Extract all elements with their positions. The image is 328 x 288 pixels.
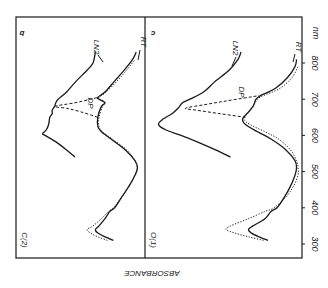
curve-ln2 bbox=[158, 52, 241, 157]
tick-label: 700 bbox=[310, 92, 320, 107]
absorbance-spectra-figure: 300400500600700800 nmbcC(2)O(1)LN2RTDPLN… bbox=[0, 0, 328, 288]
panel-c bbox=[158, 52, 298, 240]
curve-rt bbox=[95, 52, 137, 240]
curve-rt-dotted- bbox=[226, 67, 299, 241]
panel-label-b: b bbox=[19, 29, 24, 38]
label-leader bbox=[98, 55, 103, 62]
panel-b bbox=[43, 52, 138, 240]
label-ln2-b: LN2 bbox=[92, 40, 101, 55]
label-leader bbox=[293, 54, 295, 62]
curve-rt bbox=[242, 59, 296, 240]
figure-labels: nmbcC(2)O(1)LN2RTDPLN2RTDPABSORBANCE bbox=[19, 27, 321, 278]
tick-label: 600 bbox=[310, 128, 320, 143]
tick-label: 800 bbox=[310, 55, 320, 70]
label-rt-b: RT bbox=[139, 37, 148, 49]
label-dp-b: DP bbox=[86, 97, 95, 109]
label-ln2-c: LN2 bbox=[231, 41, 240, 56]
unit-label: nm bbox=[311, 27, 321, 40]
panel-label-c: c bbox=[150, 29, 155, 38]
sample-label-c2: C(2) bbox=[20, 232, 29, 248]
spectra-curves bbox=[43, 52, 299, 240]
tick-label: 500 bbox=[310, 164, 320, 179]
tick-label: 300 bbox=[310, 236, 320, 251]
tick-label: 400 bbox=[310, 200, 320, 215]
chart-canvas: 300400500600700800 nmbcC(2)O(1)LN2RTDPLN… bbox=[0, 0, 328, 288]
label-leader bbox=[138, 50, 140, 60]
y-axis-label: ABSORBANCE bbox=[124, 269, 181, 278]
label-dp-c: DP bbox=[237, 86, 246, 98]
x-axis-ticks: 300400500600700800 bbox=[302, 55, 320, 251]
sample-label-o1: O(1) bbox=[149, 232, 158, 248]
curve-dp bbox=[185, 96, 259, 118]
label-rt-c: RT bbox=[294, 42, 303, 54]
curve-rt-dotted- bbox=[87, 59, 137, 240]
